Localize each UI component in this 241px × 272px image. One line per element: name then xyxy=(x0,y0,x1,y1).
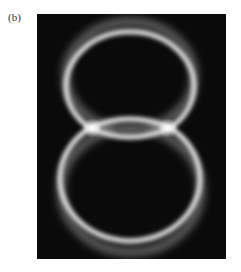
figure-eight-rings xyxy=(37,14,226,259)
ring-image-panel xyxy=(37,14,226,259)
figure-label: (b) xyxy=(8,11,21,23)
